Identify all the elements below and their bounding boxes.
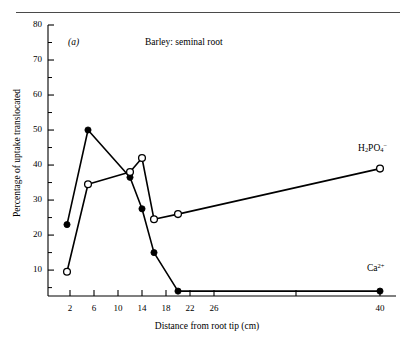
x-axis-label: Distance from root tip (cm) [0,321,414,331]
panel-label: (a) [68,37,79,47]
data-point-Ca2+ [151,250,157,256]
y-tick-label: 50 [18,124,42,134]
y-tick-label: 20 [18,229,42,239]
y-tick-label: 70 [18,54,42,64]
plot-area [0,0,414,350]
data-point-H2PO4- [85,181,92,188]
chart-title: Barley: seminal root [145,37,223,47]
data-point-Ca2+ [377,288,383,294]
data-point-Ca2+ [85,127,91,133]
data-point-H2PO4- [64,268,71,275]
data-point-H2PO4- [151,216,158,223]
series-line-H2PO4- [67,158,380,272]
calcium-charge: 2+ [378,262,385,269]
data-point-Ca2+ [64,222,70,228]
data-point-H2PO4- [377,165,384,172]
data-point-H2PO4- [139,155,146,162]
data-point-H2PO4- [127,169,134,176]
y-tick-label: 10 [18,264,42,274]
data-point-H2PO4- [175,211,182,218]
series-label-phosphate: H2PO4− [358,142,387,153]
series-label-calcium: Ca2+ [367,262,384,273]
y-tick-label: 80 [18,19,42,29]
y-tick-label: 40 [18,159,42,169]
phosphate-charge: − [384,142,388,149]
phosphate-mid: PO [368,143,380,153]
figure-panel: (a) Barley: seminal root Percentage of u… [0,0,414,350]
phosphate-base: H [358,143,365,153]
x-tick-label: 26 [199,303,229,313]
series-line-Ca2+ [67,130,380,291]
y-tick-label: 30 [18,194,42,204]
data-point-Ca2+ [139,206,145,212]
x-tick-label: 40 [365,303,395,313]
y-tick-label: 60 [18,89,42,99]
data-point-Ca2+ [175,288,181,294]
calcium-base: Ca [367,263,378,273]
